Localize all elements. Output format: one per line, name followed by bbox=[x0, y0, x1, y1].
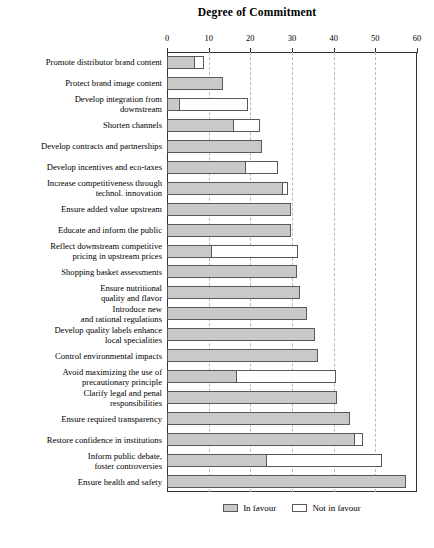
chart-bar-row bbox=[167, 387, 417, 408]
category-label: Promote distributor brand content bbox=[0, 57, 162, 67]
chart-bar-row bbox=[167, 324, 417, 345]
bar-segment-in-favour[interactable] bbox=[167, 370, 237, 383]
legend-swatch-in-favour bbox=[223, 504, 238, 512]
stacked-bar[interactable] bbox=[167, 391, 337, 404]
category-label: Shopping basket assessments bbox=[0, 267, 162, 277]
bar-segment-in-favour[interactable] bbox=[167, 328, 315, 341]
category-label: Restore confidence in institutions bbox=[0, 435, 162, 445]
bar-segment-in-favour[interactable] bbox=[167, 119, 234, 132]
bar-segment-in-favour[interactable] bbox=[167, 433, 355, 446]
x-axis-tick-label: 0 bbox=[165, 33, 169, 43]
stacked-bar[interactable] bbox=[167, 119, 260, 132]
bar-segment-in-favour[interactable] bbox=[167, 182, 283, 195]
chart-bar-row bbox=[167, 73, 417, 94]
bar-segment-in-favour[interactable] bbox=[167, 307, 307, 320]
stacked-bar[interactable] bbox=[167, 203, 291, 216]
chart-container: Degree of Commitment In favourNot in fav… bbox=[0, 0, 434, 548]
legend-swatch-not-in-favour bbox=[292, 504, 307, 512]
bar-segment-in-favour[interactable] bbox=[167, 224, 291, 237]
category-label: Develop integration from downstream bbox=[0, 94, 162, 114]
x-axis-tick-label: 20 bbox=[246, 33, 255, 43]
category-label: Develop incentives and eco-taxes bbox=[0, 162, 162, 172]
chart-bar-row bbox=[167, 471, 417, 492]
chart-bar-row bbox=[167, 282, 417, 303]
bar-segment-in-favour[interactable] bbox=[167, 77, 223, 90]
chart-bar-row bbox=[167, 94, 417, 115]
chart-bar-row bbox=[167, 115, 417, 136]
bar-segment-in-favour[interactable] bbox=[167, 161, 246, 174]
x-axis-tick bbox=[417, 48, 418, 53]
stacked-bar[interactable] bbox=[167, 98, 248, 111]
bar-segment-in-favour[interactable] bbox=[167, 265, 297, 278]
bar-segment-in-favour[interactable] bbox=[167, 140, 262, 153]
bar-segment-not-in-favour[interactable] bbox=[195, 56, 205, 69]
bar-segment-not-in-favour[interactable] bbox=[234, 119, 261, 132]
bar-segment-in-favour[interactable] bbox=[167, 475, 406, 488]
chart-bar-row bbox=[167, 157, 417, 178]
category-label: Clarify legal and penal responsibilities bbox=[0, 388, 162, 408]
x-axis-tick-label: 10 bbox=[204, 33, 213, 43]
category-label: Ensure health and safety bbox=[0, 477, 162, 487]
chart-bar-row bbox=[167, 262, 417, 283]
stacked-bar[interactable] bbox=[167, 475, 406, 488]
chart-bar-row bbox=[167, 220, 417, 241]
chart-title: Degree of Commitment bbox=[0, 6, 434, 18]
stacked-bar[interactable] bbox=[167, 140, 262, 153]
stacked-bar[interactable] bbox=[167, 370, 336, 383]
bar-segment-in-favour[interactable] bbox=[167, 98, 180, 111]
stacked-bar[interactable] bbox=[167, 412, 350, 425]
chart-bar-row bbox=[167, 199, 417, 220]
bar-segment-not-in-favour[interactable] bbox=[283, 182, 288, 195]
chart-bar-row bbox=[167, 241, 417, 262]
stacked-bar[interactable] bbox=[167, 454, 382, 467]
stacked-bar[interactable] bbox=[167, 433, 363, 446]
bar-segment-in-favour[interactable] bbox=[167, 412, 350, 425]
category-label: Develop quality labels enhance local spe… bbox=[0, 325, 162, 345]
category-label: Shorten channels bbox=[0, 120, 162, 130]
legend-item[interactable]: In favour bbox=[223, 503, 276, 513]
bar-segment-in-favour[interactable] bbox=[167, 454, 267, 467]
bar-segment-in-favour[interactable] bbox=[167, 245, 212, 258]
x-axis-tick-label: 30 bbox=[288, 33, 297, 43]
legend-label: Not in favour bbox=[312, 503, 361, 513]
stacked-bar[interactable] bbox=[167, 265, 297, 278]
category-label: Introduce new and rational regulations bbox=[0, 304, 162, 324]
chart-bar-row bbox=[167, 450, 417, 471]
bar-segment-in-favour[interactable] bbox=[167, 391, 337, 404]
chart-bar-row bbox=[167, 366, 417, 387]
category-label: Increase competitiveness through technol… bbox=[0, 178, 162, 198]
bar-segment-not-in-favour[interactable] bbox=[267, 454, 382, 467]
x-axis-tick-label: 60 bbox=[413, 33, 422, 43]
category-label: Protect brand image content bbox=[0, 78, 162, 88]
bar-segment-not-in-favour[interactable] bbox=[212, 245, 298, 258]
stacked-bar[interactable] bbox=[167, 182, 288, 195]
bar-segment-not-in-favour[interactable] bbox=[246, 161, 278, 174]
stacked-bar[interactable] bbox=[167, 286, 300, 299]
stacked-bar[interactable] bbox=[167, 224, 291, 237]
stacked-bar[interactable] bbox=[167, 245, 298, 258]
chart-bar-row bbox=[167, 136, 417, 157]
stacked-bar[interactable] bbox=[167, 349, 318, 362]
stacked-bar[interactable] bbox=[167, 77, 223, 90]
legend-item[interactable]: Not in favour bbox=[292, 503, 361, 513]
stacked-bar[interactable] bbox=[167, 328, 315, 341]
bar-segment-in-favour[interactable] bbox=[167, 203, 291, 216]
category-label: Control environmental impacts bbox=[0, 351, 162, 361]
plot-area bbox=[167, 52, 417, 492]
chart-bar-row bbox=[167, 52, 417, 73]
category-label: Reflect downstream competitive pricing i… bbox=[0, 241, 162, 261]
x-axis-tick-label: 50 bbox=[371, 33, 380, 43]
chart-bar-row bbox=[167, 429, 417, 450]
stacked-bar[interactable] bbox=[167, 307, 307, 320]
stacked-bar[interactable] bbox=[167, 161, 278, 174]
bar-segment-not-in-favour[interactable] bbox=[355, 433, 363, 446]
legend-label: In favour bbox=[243, 503, 276, 513]
bar-segment-in-favour[interactable] bbox=[167, 349, 318, 362]
bar-segment-in-favour[interactable] bbox=[167, 286, 300, 299]
bar-segment-in-favour[interactable] bbox=[167, 56, 195, 69]
stacked-bar[interactable] bbox=[167, 56, 204, 69]
category-label: Ensure nutritional quality and flavor bbox=[0, 283, 162, 303]
bar-segment-not-in-favour[interactable] bbox=[237, 370, 336, 383]
bar-segment-not-in-favour[interactable] bbox=[180, 98, 249, 111]
chart-legend: In favourNot in favour bbox=[167, 503, 417, 513]
